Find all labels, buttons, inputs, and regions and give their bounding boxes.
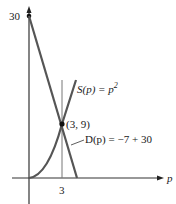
x-axis-label: p	[166, 172, 173, 184]
x-axis-arrow-icon	[157, 176, 164, 181]
supply-demand-graph: p 30 3 (3, 9) S(p) = p2 D(p) = −7 + 30	[0, 0, 176, 204]
demand-leader-line	[71, 140, 84, 145]
supply-label: S(p) = p2	[77, 81, 118, 96]
equilibrium-label: (3, 9)	[66, 118, 90, 131]
y-axis-arrow-icon	[27, 6, 32, 13]
y-tick-30-label: 30	[9, 10, 21, 22]
demand-label: D(p) = −7 + 30	[85, 133, 152, 146]
equilibrium-point	[59, 121, 64, 126]
x-tick-3-label: 3	[59, 184, 65, 196]
